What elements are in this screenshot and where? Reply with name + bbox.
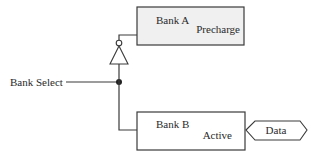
data-port: Data bbox=[246, 121, 307, 140]
inverter-bubble bbox=[116, 40, 122, 46]
bank-b-wire bbox=[119, 82, 137, 130]
bank-b-state: Active bbox=[203, 129, 232, 141]
bank-diagram: Bank Select Bank A Precharge Bank B Acti… bbox=[0, 0, 312, 161]
inverter-triangle bbox=[110, 46, 128, 64]
bank-a-wire bbox=[119, 35, 137, 40]
bank-b-block: Bank B Active bbox=[137, 112, 245, 150]
bank-b-title: Bank B bbox=[156, 118, 189, 130]
bank-a-title: Bank A bbox=[156, 14, 189, 26]
bank-select-label: Bank Select bbox=[10, 76, 63, 88]
bank-a-state: Precharge bbox=[196, 23, 240, 35]
data-port-label: Data bbox=[266, 124, 287, 136]
bank-a-block: Bank A Precharge bbox=[137, 7, 244, 45]
inverter-icon bbox=[110, 40, 128, 64]
